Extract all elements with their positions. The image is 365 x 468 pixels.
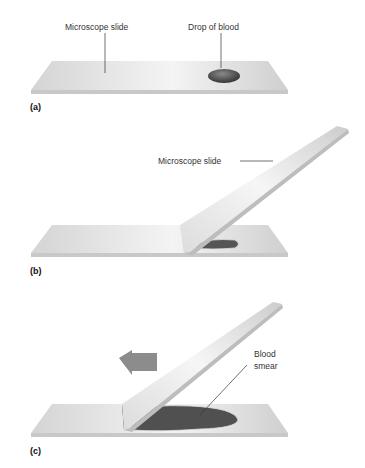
label-smear: smear — [254, 361, 278, 371]
panel-c-illustration — [31, 302, 288, 437]
panel-label-b: (b) — [30, 266, 42, 276]
label-blood: Blood — [254, 349, 276, 359]
panel-b-illustration — [31, 126, 349, 257]
panel-label-c: (c) — [30, 446, 41, 456]
panel-label-a: (a) — [30, 102, 41, 112]
blood-smear-diagram — [0, 0, 365, 468]
label-drop-of-blood: Drop of blood — [188, 22, 239, 32]
label-microscope-slide-a: Microscope slide — [65, 22, 128, 32]
label-microscope-slide-b: Microscope slide — [158, 156, 221, 166]
panel-a-illustration — [31, 33, 288, 94]
left-arrow-icon — [119, 350, 157, 375]
